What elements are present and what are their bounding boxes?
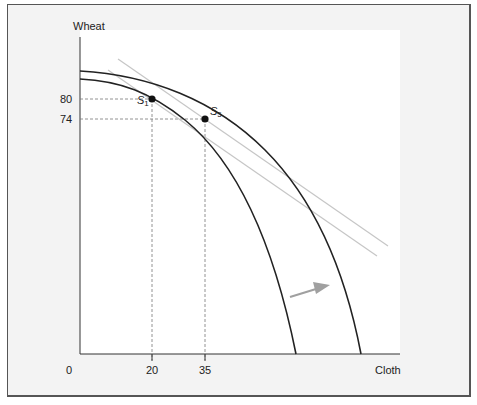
s1-subscript: 1 bbox=[144, 99, 148, 108]
shift-arrow-icon bbox=[313, 282, 330, 294]
point-s1-label: S1 bbox=[137, 94, 149, 108]
price-line-s5 bbox=[118, 59, 388, 246]
x-tick-35-label: 35 bbox=[199, 364, 211, 376]
point-s1 bbox=[148, 95, 155, 102]
point-s5-label: S5 bbox=[210, 105, 222, 119]
chart-svg bbox=[0, 0, 477, 405]
shift-arrow-shaft bbox=[290, 289, 316, 297]
s5-subscript: 5 bbox=[217, 110, 221, 119]
y-tick-74: 74 bbox=[60, 113, 72, 125]
y-tick-80: 80 bbox=[60, 93, 72, 105]
origin-label: 0 bbox=[66, 364, 72, 376]
ppf-inner-curve bbox=[80, 79, 296, 354]
x-tick-20-label: 20 bbox=[146, 364, 158, 376]
y-axis-label: Wheat bbox=[73, 20, 105, 32]
x-axis-label: Cloth bbox=[375, 364, 401, 376]
point-s5 bbox=[201, 115, 208, 122]
